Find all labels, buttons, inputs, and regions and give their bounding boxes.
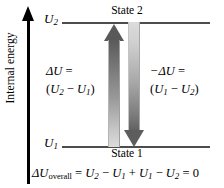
annotation-right-close-paren: ) [195,82,199,96]
overall-equals-2: = [179,166,192,180]
state-name-state-2: State 2 [96,4,158,16]
overall-operator-3: − [153,166,166,180]
overall-term-4: U [166,166,175,180]
level-subscript-u1: 1 [53,141,58,151]
annotation-left-operator: − [64,82,77,96]
annotation-left-equals: = [62,64,72,78]
overall-result: 0 [193,166,199,180]
annotation-delta-u-forward: ΔU = (U2 − U1) [46,62,95,99]
axis-label-internal-energy: Internal energy [4,12,16,124]
overall-energy-equation: ΔUoverall = U2 − U1 + U1 − U2 = 0 [32,166,220,181]
annotation-left-symbol: ΔU [46,64,62,78]
down-arrow-state2-to-state1 [124,22,144,147]
annotation-left-line-2: (U2 − U1) [46,80,95,99]
annotation-right-term-1: U [154,82,163,96]
energy-level-diagram: Internal energy U2 U1 State 2 State 1 ΔU… [0,0,224,188]
level-tick-label-u2: U2 [44,11,58,27]
level-symbol-u1: U [44,135,53,150]
arrow-down-shaft [128,22,140,131]
arrow-down-head-icon [124,130,144,147]
internal-energy-axis [22,6,36,184]
overall-lhs-symbol: ΔU [32,166,48,180]
overall-term-2: U [112,166,121,180]
state-name-state-1: State 1 [96,147,158,159]
overall-operator-1: − [99,166,112,180]
overall-operator-2: + [126,166,139,180]
annotation-left-term-2: U [77,82,86,96]
overall-equals-1: = [72,166,85,180]
arrow-up-shaft [108,40,120,147]
annotation-right-line-2: (U1 − U2) [150,80,199,99]
up-arrow-state1-to-state2 [104,24,124,147]
level-symbol-u2: U [44,11,53,26]
annotation-delta-u-reverse: −ΔU = (U1 − U2) [150,62,199,99]
annotation-right-equals: = [175,64,185,78]
annotation-right-line-1: −ΔU = [150,62,199,80]
annotation-right-operator: − [168,82,181,96]
overall-lhs-subscript: overall [48,171,72,181]
arrow-up-head-icon [104,24,124,41]
annotation-left-close-paren: ) [91,82,95,96]
level-tick-label-u1: U1 [44,135,58,151]
overall-term-1: U [85,166,94,180]
annotation-left-term-1: U [50,82,59,96]
level-subscript-u2: 2 [53,17,58,27]
overall-term-3: U [139,166,148,180]
axis-shaft [27,19,30,184]
annotation-right-term-2: U [181,82,190,96]
annotation-right-symbol: −ΔU [150,64,175,78]
annotation-left-line-1: ΔU = [46,62,95,80]
